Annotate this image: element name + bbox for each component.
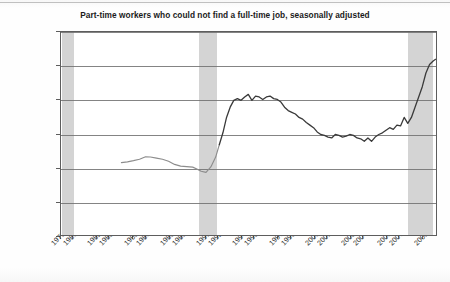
- series-line-0: [121, 145, 219, 173]
- series-line-1: [219, 59, 435, 144]
- plot-area: [60, 31, 437, 236]
- chart-page: Part-time workers who could not find a f…: [0, 0, 450, 282]
- scan-artifact-rule: [0, 2, 450, 3]
- chart-title: Part-time workers who could not find a f…: [0, 10, 450, 20]
- plot-inner: [61, 32, 436, 235]
- data-series-layer: [61, 32, 436, 235]
